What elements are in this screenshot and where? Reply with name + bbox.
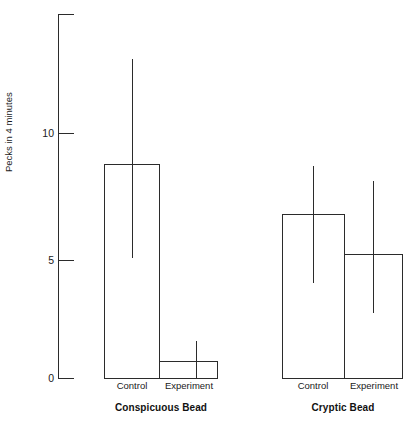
xtick-label-cryptic-control: Control [278, 381, 348, 391]
bar-conspicuous-experiment [160, 362, 218, 379]
y-tick-label-5: 5 [16, 255, 54, 266]
group-label-conspicuous-bead: Conspicuous Bead [90, 403, 232, 413]
y-tick-label-0: 0 [16, 373, 54, 384]
group-label-cryptic-bead: Cryptic Bead [278, 403, 408, 413]
xtick-label-cryptic-experiment: Experiment [342, 381, 406, 391]
bar-chart-figure: 10 5 0 Pecks in 4 minutes Control Experi… [0, 0, 413, 427]
y-tick-label-10: 10 [16, 128, 54, 139]
y-axis-title: Pecks in 4 minutes [4, 32, 14, 172]
xtick-label-conspicuous-experiment: Experiment [157, 381, 221, 391]
plot-area [0, 0, 413, 427]
